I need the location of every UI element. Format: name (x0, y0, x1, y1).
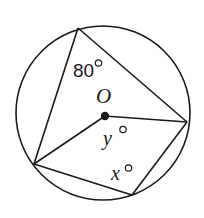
angle-label-80: 80 (73, 60, 94, 81)
center-label-O: O (96, 84, 111, 108)
radius-center-right (105, 116, 187, 122)
chord-top-left (34, 28, 78, 164)
degree-symbol-icon (95, 60, 101, 66)
degree-symbol-icon (125, 165, 131, 171)
angle-label-x: x (110, 162, 120, 184)
angle-value: 80 (73, 60, 94, 81)
center-point (101, 112, 109, 120)
circle-geometry-diagram: 80 O y x (0, 0, 204, 218)
angle-label-y: y (101, 127, 112, 150)
radius-center-left (34, 116, 105, 164)
degree-symbol-icon (120, 126, 126, 132)
chord-bottom-right (132, 122, 187, 195)
chord-top-right (78, 28, 187, 122)
